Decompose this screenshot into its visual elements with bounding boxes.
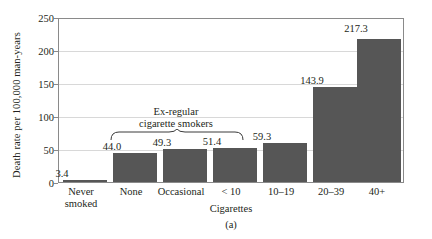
bar-lt-10 — [213, 148, 257, 182]
x-tick-label-40-plus: 40+ — [354, 186, 400, 198]
bar-value-20-39: 143.9 — [290, 75, 334, 86]
bar-occasional — [163, 149, 207, 182]
x-tick-label-none: None — [108, 186, 154, 198]
panel-label: (a) — [58, 219, 404, 230]
x-tick-label-occasional: Occasional — [156, 186, 206, 198]
bar-10-19 — [263, 143, 307, 182]
y-tick-label: 0 — [22, 179, 54, 189]
bar-value-none: 44.0 — [90, 141, 134, 152]
annotation-ex-regular-smokers-label: Ex-regular cigarette smokers — [108, 106, 244, 129]
y-tick-label: 50 — [22, 146, 54, 156]
y-tick-label: 150 — [22, 80, 54, 90]
x-tick-label-20-39: 20–39 — [308, 186, 354, 198]
bar-value-10-19: 59.3 — [240, 131, 284, 142]
y-tick-label: 250 — [22, 14, 54, 24]
bar-40-plus — [357, 39, 401, 182]
y-tick-label: 200 — [22, 47, 54, 57]
gridline-150 — [59, 84, 403, 85]
gridline-200 — [59, 51, 403, 52]
x-tick-label-lt-10: < 10 — [208, 186, 254, 198]
x-axis-title: Cigarettes — [58, 203, 404, 214]
bar-value-never-smoked: 3.4 — [40, 168, 84, 179]
y-tick-mark — [54, 183, 58, 184]
bar-never-smoked — [63, 180, 107, 182]
bar-none — [113, 153, 157, 182]
y-tick-label: 100 — [22, 113, 54, 123]
y-axis-title: Death rate per 100,000 man-years — [10, 20, 24, 190]
plot-area — [58, 18, 404, 183]
figure-panel-a: Death rate per 100,000 man-years 250 200… — [0, 0, 432, 239]
bar-20-39 — [313, 87, 357, 182]
bar-value-40-plus: 217.3 — [334, 23, 378, 34]
x-tick-label-10-19: 10–19 — [258, 186, 304, 198]
annotation-bracket-icon — [110, 129, 244, 141]
